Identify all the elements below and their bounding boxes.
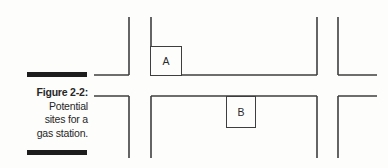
sites-layer: AB bbox=[0, 0, 388, 168]
figure-caption: Figure 2-2: Potential sites for a gas st… bbox=[0, 86, 88, 140]
site-box-b: B bbox=[226, 96, 256, 128]
site-label-b: B bbox=[237, 106, 244, 118]
caption-line-2: sites for a bbox=[0, 113, 88, 127]
caption-line-3: gas station. bbox=[0, 127, 88, 141]
site-label-a: A bbox=[162, 55, 169, 67]
caption-rule-bottom bbox=[27, 150, 87, 155]
site-box-a: A bbox=[150, 46, 182, 76]
figure-2-2-street-diagram: AB Figure 2-2: Potential sites for a gas… bbox=[0, 0, 388, 168]
caption-rule-top bbox=[27, 72, 87, 77]
figure-label: Figure 2-2: bbox=[0, 86, 88, 100]
caption-line-1: Potential bbox=[0, 100, 88, 114]
